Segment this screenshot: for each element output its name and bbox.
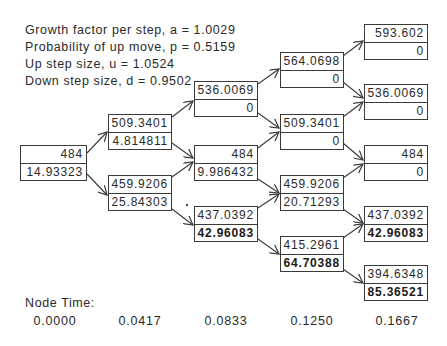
node-value: 0 <box>195 100 257 117</box>
node-price: 536.0069 <box>195 82 257 100</box>
node-value: 0 <box>365 103 427 120</box>
node-price: 459.9206 <box>281 176 343 194</box>
node-value-early-exercise: 64.70388 <box>281 255 343 272</box>
node-time-label: Node Time: <box>25 296 95 310</box>
tree-node-3-3: 415.2961 64.70388 <box>280 236 344 272</box>
stray-dot <box>186 204 188 206</box>
tree-node-2-2: 437.0392 42.96083 <box>194 206 258 242</box>
node-price: 415.2961 <box>281 237 343 255</box>
node-value-exercise: 42.96083 <box>365 225 427 242</box>
node-price: 394.6348 <box>365 266 427 284</box>
tree-node-0-0: 484 14.93323 <box>20 145 87 181</box>
tree-node-1-1: 459.9206 25.84303 <box>108 175 172 211</box>
node-price: 484 <box>365 146 427 164</box>
tree-node-4-0: 593.602 0 <box>364 24 428 60</box>
node-value: 25.84303 <box>109 194 171 211</box>
tree-node-3-0: 564.0698 0 <box>280 52 344 88</box>
node-value: 0 <box>365 164 427 181</box>
node-value: 9.986432 <box>195 164 257 181</box>
node-value: 14.93323 <box>21 164 86 181</box>
arrow-up <box>87 132 107 153</box>
tree-node-2-1: 484 9.986432 <box>194 145 258 181</box>
node-time-2: 0.0833 <box>191 314 261 328</box>
tree-node-3-2: 459.9206 20.71293 <box>280 175 344 211</box>
node-value-exercise: 85.36521 <box>365 284 427 301</box>
tree-node-3-1: 509.3401 0 <box>280 114 344 150</box>
node-time-4: 0.1667 <box>362 314 432 328</box>
node-price: 564.0698 <box>281 53 343 71</box>
node-value: 0 <box>365 43 427 60</box>
node-price: 437.0392 <box>195 207 257 225</box>
node-price: 536.0069 <box>365 85 427 103</box>
node-value: 0 <box>281 133 343 150</box>
node-price: 509.3401 <box>281 115 343 133</box>
node-time-1: 0.0417 <box>105 314 175 328</box>
node-price: 484 <box>21 146 86 164</box>
node-price: 437.0392 <box>365 207 427 225</box>
tree-node-4-1: 536.0069 0 <box>364 84 428 120</box>
tree-node-4-4: 394.6348 85.36521 <box>364 265 428 301</box>
tree-node-2-0: 536.0069 0 <box>194 81 258 117</box>
arrow-down <box>87 174 107 195</box>
node-time-3: 0.1250 <box>277 314 347 328</box>
node-value-early-exercise: 42.96083 <box>195 225 257 242</box>
node-value: 0 <box>281 71 343 88</box>
node-price: 593.602 <box>365 25 427 43</box>
tree-node-4-3: 437.0392 42.96083 <box>364 206 428 242</box>
tree-node-1-0: 509.3401 4.814811 <box>108 114 172 150</box>
node-price: 459.9206 <box>109 176 171 194</box>
tree-node-4-2: 484 0 <box>364 145 428 181</box>
node-value: 20.71293 <box>281 194 343 211</box>
node-time-0: 0.0000 <box>20 314 90 328</box>
node-price: 509.3401 <box>109 115 171 133</box>
node-value: 4.814811 <box>109 133 171 150</box>
node-price: 484 <box>195 146 257 164</box>
